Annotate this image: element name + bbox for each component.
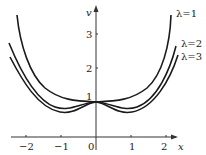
legend-lambda-1: λ=1 [176, 8, 197, 19]
x-tick-label: −1 [54, 141, 69, 152]
x-axis-arrow-icon [171, 135, 178, 140]
x-axis-label: x [178, 141, 184, 152]
y-axis-arrow-icon [94, 5, 99, 12]
x-tick-label: −2 [19, 141, 34, 152]
y-tick-label: 2 [86, 63, 92, 74]
x-tick-label: 0 [88, 141, 94, 152]
series-lambda-3 [10, 55, 178, 112]
series-lambda-1 [17, 15, 171, 102]
legend-lambda-2: λ=2 [181, 38, 202, 49]
x-tick-label: 1 [129, 141, 135, 152]
chart-canvas: −2 −1 0 1 2 1 2 3 x v λ=1 λ=2 λ=3 [0, 0, 206, 155]
x-tick-label: 2 [161, 141, 167, 152]
y-tick-label: 3 [86, 29, 92, 40]
y-axis-label: v [86, 7, 92, 18]
legend-lambda-3: λ=3 [181, 51, 202, 62]
y-tick-label: 1 [86, 91, 92, 102]
